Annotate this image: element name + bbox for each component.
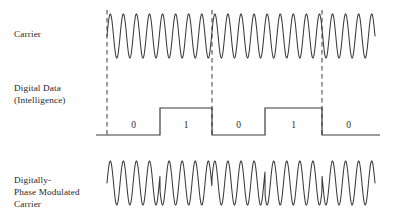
waveform-plot	[0, 0, 406, 223]
carrier-waveform-path	[107, 14, 375, 58]
phase-modulation-figure: Carrier Digital Data (Intelligence) Digi…	[0, 0, 406, 223]
modulated-carrier-waveform-path	[107, 161, 375, 205]
bit-value-label: 0	[346, 120, 351, 130]
bit-value-label: 1	[291, 120, 296, 130]
bit-value-label: 0	[131, 120, 136, 130]
bit-value-label: 1	[184, 120, 189, 130]
bit-value-label: 0	[236, 120, 241, 130]
